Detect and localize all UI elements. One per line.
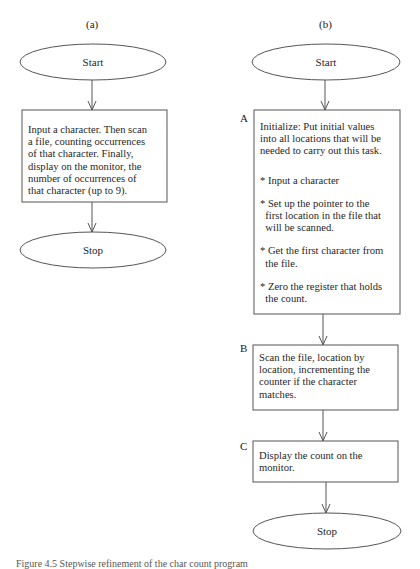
panel-label-b: (b) (319, 18, 332, 30)
text-line: display on the monitor, the (28, 161, 147, 173)
process-text-b-c: Display the count on the monitor. (259, 450, 363, 474)
process-text-b-a: Initialize: Put initial values into all … (260, 121, 383, 305)
text-line: monitor. (259, 462, 363, 474)
text-line: location, incrementing the (259, 364, 370, 376)
stop-label-a: Stop (20, 244, 166, 256)
box-label-b: B (240, 342, 247, 354)
text-line: number of occurrences of (28, 173, 147, 185)
text-line: needed to carry out this task. (260, 145, 383, 157)
bullet-line: the count. (260, 293, 383, 305)
text-line: into all locations that will be (260, 133, 383, 145)
bullet-line: * Input a character (260, 175, 383, 187)
stop-label-b: Stop (253, 525, 401, 537)
bullet-line: * Set up the pointer to the (260, 198, 383, 210)
text-line: Scan the file, location by (259, 352, 370, 364)
bullet-line: will be scanned. (260, 222, 383, 234)
process-text-b-b: Scan the file, location by location, inc… (259, 352, 370, 401)
text-line: counter if the character (259, 376, 370, 388)
text-line: of that character. Finally, (28, 148, 147, 160)
panel-label-a: (a) (86, 18, 98, 30)
bullet-line: * Zero the register that holds (260, 281, 383, 293)
bullet-line: the file. (260, 258, 383, 270)
figure-caption: Figure 4.5 Stepwise refinement of the ch… (16, 558, 248, 569)
text-line: Input a character. Then scan (28, 124, 147, 136)
process-text-a: Input a character. Then scan a file, cou… (28, 124, 147, 197)
text-line: Initialize: Put initial values (260, 121, 383, 133)
text-line: matches. (259, 389, 370, 401)
bullet-line: * Get the first character from (260, 245, 383, 257)
text-line: a file, counting occurrences (28, 136, 147, 148)
start-label-a: Start (20, 56, 166, 68)
text-line: Display the count on the (259, 450, 363, 462)
text-line: that character (up to 9). (28, 185, 147, 197)
box-label-a: A (240, 112, 248, 124)
bullet-line: first location in the file that (260, 210, 383, 222)
box-label-c: C (240, 440, 247, 452)
start-label-b: Start (252, 56, 400, 68)
